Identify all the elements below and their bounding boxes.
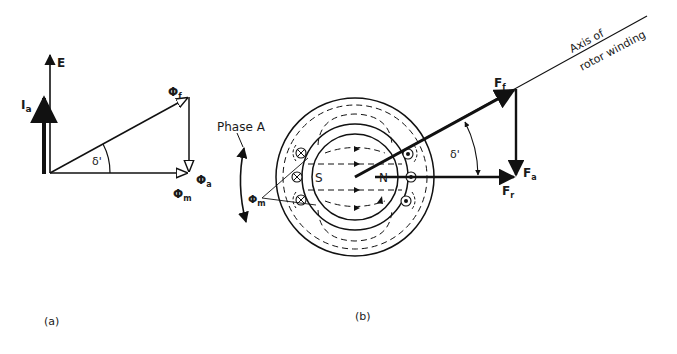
phase-a-leader — [237, 133, 243, 147]
delta-angle-arc-a — [103, 144, 110, 173]
label-e: E — [57, 56, 65, 70]
delta-angle-arc-b — [465, 122, 478, 175]
label-ff: Ff — [494, 76, 506, 92]
label-fr: Fr — [502, 184, 514, 200]
ff-vector — [355, 90, 514, 177]
panel-a-phasor-diagram: E Ia Φf Φa Φm δ' (a) — [21, 55, 212, 328]
conductor-in-icon — [296, 148, 306, 158]
flux-arrow-3 — [354, 187, 360, 193]
label-ia: Ia — [21, 98, 32, 114]
label-delta-b: δ' — [450, 148, 460, 161]
coil-end-right-top — [414, 145, 417, 162]
label-south-pole: S — [315, 171, 323, 185]
flux-loop-bottom — [318, 210, 392, 241]
rotation-arrow — [377, 196, 383, 204]
phasor-diagram-figure: E Ia Φf Φa Φm δ' (a) — [0, 0, 677, 354]
flux-arrow-2 — [354, 161, 360, 167]
conductor-in-icon — [292, 172, 302, 182]
label-north-pole: N — [379, 171, 388, 185]
conductor-out-icon — [401, 196, 411, 206]
phi-f-phasor — [50, 98, 187, 173]
coil-end-right-bottom — [412, 192, 415, 209]
panel-b-machine-diagram: Phase A Φm S N Axis of rotor winding Ff … — [217, 16, 648, 323]
phase-a-double-arrow — [240, 148, 246, 222]
label-fa: Fa — [523, 166, 537, 182]
caption-a: (a) — [44, 315, 59, 328]
label-phase-a: Phase A — [217, 120, 266, 134]
label-phi-f: Φf — [168, 85, 182, 101]
label-delta-a: δ' — [92, 155, 102, 168]
flux-arrow-1 — [354, 146, 360, 152]
label-phi-a: Φa — [196, 173, 212, 189]
label-phi-m-b: Φm — [248, 193, 266, 208]
caption-b: (b) — [355, 310, 371, 323]
flux-loop-top — [318, 114, 392, 145]
label-phi-m: Φm — [173, 187, 192, 203]
